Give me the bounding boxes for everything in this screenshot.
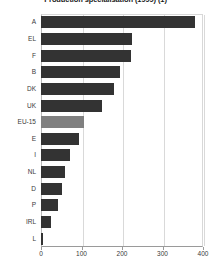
gridline (204, 15, 205, 246)
bar-el (41, 33, 132, 45)
bar-row (41, 50, 203, 62)
bar-row (41, 16, 203, 28)
bar-row (41, 66, 203, 78)
chart-title: Production specialisation (1999) (1) (0, 0, 211, 4)
y-axis-label-i: I (0, 151, 38, 158)
bar-i (41, 149, 70, 161)
y-axis-label-e: E (0, 135, 38, 142)
y-axis-label-eu-15: EU-15 (0, 118, 38, 125)
y-axis-label-f: F (0, 52, 38, 59)
y-axis-label-uk: UK (0, 102, 38, 109)
bar-row (41, 33, 203, 45)
bar-p (41, 199, 58, 211)
bar-dk (41, 83, 114, 95)
x-tick-label-200: 200 (117, 250, 128, 257)
y-axis-label-d: D (0, 185, 38, 192)
bar-f (41, 50, 131, 62)
bar-row (41, 233, 203, 245)
y-axis-label-irl: IRL (0, 218, 38, 225)
bar-row (41, 83, 203, 95)
x-axis-ticks: 0100200300400 (41, 247, 203, 261)
bar-irl (41, 216, 51, 228)
chart-page: Production specialisation (1999) (1) AEL… (0, 0, 211, 272)
y-axis-label-p: P (0, 201, 38, 208)
bar-row (41, 133, 203, 145)
bar-row (41, 100, 203, 112)
y-axis-label-a: A (0, 18, 38, 25)
bar-eu-15 (41, 116, 84, 128)
bar-row (41, 183, 203, 195)
x-tick-label-0: 0 (39, 250, 43, 257)
y-axis-label-el: EL (0, 35, 38, 42)
bar-uk (41, 100, 102, 112)
bar-series (41, 14, 203, 247)
y-axis-labels: AELFBDKUKEU-15EINLDPIRLL (0, 14, 38, 247)
bar-row (41, 199, 203, 211)
bar-l (41, 233, 43, 245)
bar-row (41, 149, 203, 161)
bar-b (41, 66, 120, 78)
bar-row (41, 116, 203, 128)
bar-d (41, 183, 62, 195)
y-axis-label-dk: DK (0, 85, 38, 92)
y-axis-label-b: B (0, 68, 38, 75)
bar-row (41, 216, 203, 228)
bar-e (41, 133, 79, 145)
bar-row (41, 166, 203, 178)
bar-a (41, 16, 195, 28)
y-axis-label-nl: NL (0, 168, 38, 175)
y-axis-label-l: L (0, 235, 38, 242)
x-tick-label-100: 100 (76, 250, 87, 257)
bar-nl (41, 166, 65, 178)
x-tick-label-400: 400 (198, 250, 209, 257)
x-tick-label-300: 300 (157, 250, 168, 257)
